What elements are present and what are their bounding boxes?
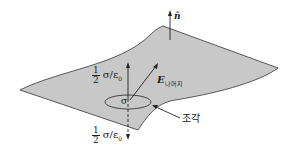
- patch-label: 조각: [182, 114, 200, 124]
- lower-field-arrowhead: [126, 134, 130, 140]
- upper-field-label: 12 σ/ε0: [92, 66, 122, 85]
- charged-surface: [20, 26, 278, 130]
- diagram-canvas: [0, 0, 297, 160]
- normal-arrowhead: [168, 10, 172, 16]
- lower-field-label: 12 σ/ε0: [92, 126, 122, 145]
- rest-field-label: E나머지: [157, 75, 183, 87]
- normal-label: n̂: [174, 12, 181, 21]
- patch-pointer-arrow: [156, 107, 180, 118]
- patch-symbol: σ: [121, 97, 127, 106]
